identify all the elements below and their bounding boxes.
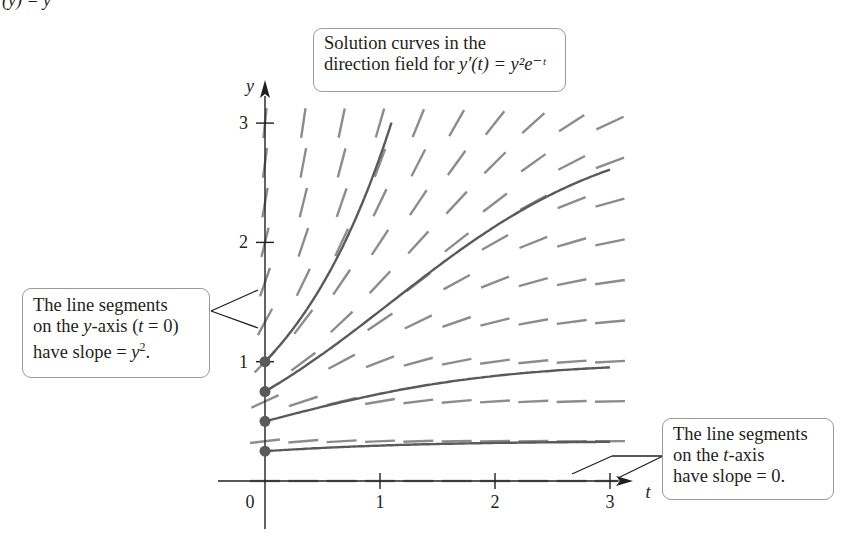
slope-segment [301,148,307,177]
slope-segment [519,278,548,286]
axes: 0123123ty [218,76,651,529]
slope-segment [445,233,469,252]
initial-point [260,386,271,397]
y-axis-callout: The line segments on the y-axis (t = 0) … [22,288,210,378]
slope-segment [376,109,384,138]
slope-segments [250,108,625,481]
slope-segment [480,401,510,403]
text: -axis [729,445,765,465]
x-tick-label: 0 [246,492,255,512]
slope-segment [373,189,386,216]
solution-curve [265,367,610,421]
t-axis-label: t [645,482,651,502]
slope-segment [368,314,393,331]
var-y: y [131,342,139,362]
slope-segment [297,269,310,296]
slope-segment [557,401,587,402]
initial-point [260,416,271,427]
leader-line [572,456,612,474]
text: -axis ( [92,316,139,336]
slope-segment [403,441,433,442]
slope-segment [338,148,346,177]
title-line-2-text: direction field for [324,54,459,74]
y-axis-note-line-1: The line segments [33,295,199,316]
slope-segment [331,312,353,333]
slope-segment [333,270,350,295]
slope-segment [596,158,624,168]
slope-segment [365,441,395,442]
slope-segment [596,199,625,207]
slope-segment [557,361,587,363]
slope-segment [443,275,469,289]
x-tick-label: 3 [606,492,615,512]
slope-segment [375,149,385,177]
slope-segment [328,355,354,369]
slope-segment [446,192,467,214]
slope-segment [481,277,509,288]
y-axis-note-line-3: have slope = y2. [33,337,199,363]
slope-segment [301,108,305,138]
slope-segment [410,190,427,215]
slope-segment [480,318,509,325]
y-axis-label: y [244,76,254,96]
slope-segment [370,271,391,293]
leader-line [618,456,663,478]
slope-segment [405,315,432,328]
slope-segment [449,110,464,136]
t-axis-callout: The line segments on the t-axis have slo… [662,418,834,500]
y-axis-arrow-icon [260,80,270,98]
slope-segment [595,321,625,324]
slope-segment [486,111,505,135]
slope-segment [519,319,549,324]
solution-curve [265,442,610,451]
x-tick-label: 2 [491,492,500,512]
text: . [146,342,151,362]
slope-segment [289,397,317,406]
slope-segment [482,235,508,250]
title-line-1: Solution curves in the [324,33,555,54]
slope-segment [519,237,547,248]
text: on the [673,445,723,465]
slope-segment [518,360,548,363]
slope-segment [337,188,347,216]
slope-segment [448,151,465,175]
slope-segment [557,279,586,285]
slope-segment [413,109,424,137]
slope-segment [558,156,585,170]
slope-segment [557,320,587,324]
slope-segment [484,152,505,173]
y-axis-note-line-2: on the y-axis (t = 0) [33,316,199,337]
leader-line [211,290,258,311]
title-line-2: direction field for y′(t) = y²e⁻ᵗ [324,54,555,75]
initial-point [260,356,271,367]
x-tick-label: 1 [376,492,385,512]
slope-segment [339,108,345,137]
slope-segment [404,358,433,366]
t-axis-note-line-3: have slope = 0. [673,466,823,487]
slope-segment [443,317,471,327]
slope-segment [442,400,472,403]
slope-segment [595,280,625,284]
slope-segment [595,361,625,363]
slope-segment [483,194,507,212]
slope-segment [518,401,548,402]
solution-curve [265,170,610,392]
slope-segment [366,356,394,367]
title-callout: Solution curves in the direction field f… [313,28,566,92]
text: on the [33,316,83,336]
slope-segment [442,441,472,442]
y-tick-label: 1 [239,352,248,372]
slope-segment [372,230,388,255]
text: have slope = [33,342,131,362]
slope-segment [522,113,544,133]
slope-segment [558,197,586,208]
text: = 0) [143,316,178,336]
t-axis-note-line-1: The line segments [673,424,823,445]
initial-point [260,446,271,457]
slope-segment [521,154,545,171]
slope-segment [596,117,623,130]
slope-segment [480,360,510,364]
slope-segment [327,440,357,442]
slope-segment [442,359,471,365]
equation: y′(t) = y²e⁻ᵗ [459,54,545,74]
